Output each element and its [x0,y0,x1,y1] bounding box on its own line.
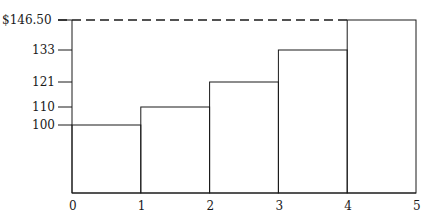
x-tick-label: 5 [413,199,421,213]
x-tick-label: 3 [275,199,283,213]
y-tick-label: 100 [32,118,55,132]
bar-1-2 [141,107,210,193]
y-axis-labels: 100110121133$146.50 [2,13,55,132]
step-chart: 100110121133$146.50 012345 [0,0,431,221]
y-axis-ticks [58,20,72,125]
bar-3-4 [278,50,347,193]
bar-0-1 [72,125,141,193]
x-axis-labels: 012345 [69,199,421,213]
step-bars [72,20,416,193]
y-tick-label: 133 [32,43,55,57]
x-tick-label: 4 [344,199,352,213]
bar-4-5 [347,20,416,193]
y-tick-label: 121 [32,75,55,89]
x-tick-label: 2 [207,199,215,213]
bar-2-3 [210,82,279,193]
y-tick-label: $146.50 [2,13,52,27]
x-tick-label: 0 [69,199,77,213]
x-tick-label: 1 [138,199,146,213]
y-tick-label: 110 [32,100,55,114]
